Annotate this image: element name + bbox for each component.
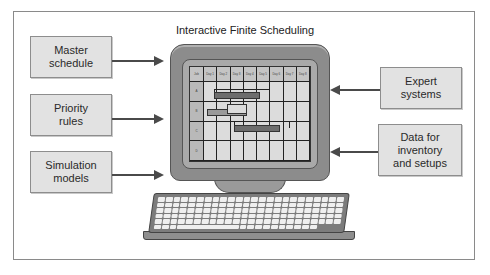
gantt-row-label: D [190, 141, 204, 161]
simulation-models-arrow [112, 174, 162, 176]
inventory-setups-box: Data for inventory and setups [378, 124, 462, 176]
gantt-bar [234, 125, 280, 132]
gantt-row-label: A [190, 82, 204, 102]
gantt-header-job: Job [190, 67, 204, 82]
keyboard-top [148, 193, 350, 233]
expert-systems-box: Expert systems [380, 67, 462, 109]
gantt-chart-screen: Job Day 1 Day 2 Day 3 Day 4 Day 5 Day 6 … [189, 66, 311, 162]
priority-rules-box: Priority rules [30, 94, 112, 136]
gantt-header-day: Day 1 [204, 67, 217, 82]
keyboard-icon [143, 193, 355, 241]
gantt-header-day: Day 8 [297, 67, 310, 82]
gantt-header-day: Day 2 [217, 67, 230, 82]
inventory-setups-arrow [332, 151, 378, 153]
gantt-row-label: C [190, 122, 204, 142]
gantt-row-label: B [190, 102, 204, 122]
gantt-header-day: Day 4 [244, 67, 257, 82]
gantt-header-day: Day 6 [270, 67, 283, 82]
gantt-header-day: Day 3 [231, 67, 244, 82]
simulation-models-box: Simulation models [30, 151, 112, 193]
gantt-bar-outline [227, 104, 247, 114]
monitor-bezel: Job Day 1 Day 2 Day 3 Day 4 Day 5 Day 6 … [182, 59, 318, 169]
priority-rules-arrow [112, 118, 162, 120]
master-schedule-arrow [112, 60, 162, 62]
gantt-bar [214, 92, 260, 99]
gantt-header-day: Day 7 [284, 67, 297, 82]
computer-monitor-icon: Job Day 1 Day 2 Day 3 Day 4 Day 5 Day 6 … [170, 44, 330, 181]
master-schedule-box: Master schedule [30, 36, 112, 78]
diagram-title: Interactive Finite Scheduling [150, 24, 340, 36]
keyboard-keys [154, 197, 344, 229]
expert-systems-arrow [332, 89, 380, 91]
gantt-header-day: Day 5 [257, 67, 270, 82]
